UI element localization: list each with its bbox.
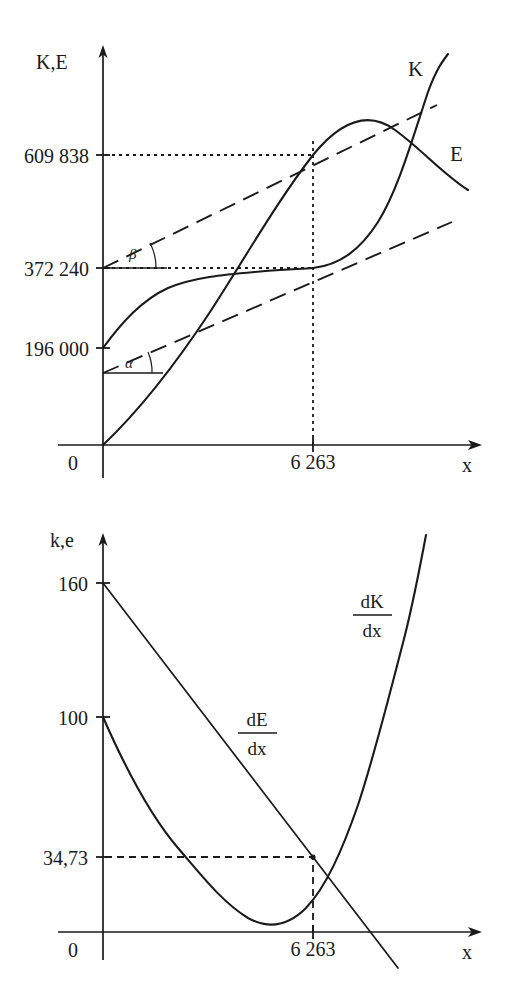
curve-K bbox=[103, 54, 448, 348]
tangent-line-beta bbox=[103, 105, 437, 268]
curve-label-E: E bbox=[450, 142, 463, 166]
angle-label-alpha: α bbox=[125, 355, 134, 371]
curve-E bbox=[103, 120, 468, 445]
y-tick-label-372240: 372 240 bbox=[24, 258, 89, 280]
fraction-dE-denominator: dx bbox=[248, 738, 268, 759]
y-tick-marks-bottom bbox=[96, 583, 313, 939]
x-axis-title-top: x bbox=[462, 454, 472, 476]
curve-dE-dx bbox=[103, 583, 398, 968]
fraction-dK-dx: dK dx bbox=[353, 591, 392, 641]
y-tick-label-609838: 609 838 bbox=[24, 145, 89, 167]
angle-label-beta: β bbox=[128, 246, 137, 262]
x-axis-title-bottom: x bbox=[462, 941, 472, 963]
y-axis-title-bottom: k,e bbox=[50, 529, 74, 551]
fraction-dK-numerator: dK bbox=[360, 591, 384, 612]
y-tick-label-160: 160 bbox=[58, 573, 88, 595]
figure-top-K-E: β α K,E x 0 609 838 372 240 196 000 6 26… bbox=[0, 0, 513, 495]
y-tick-label-196000: 196 000 bbox=[24, 338, 89, 360]
axes-top bbox=[58, 45, 482, 478]
figure-bottom-dK-dE: dK dx dE dx k,e x 0 160 100 34,73 6 263 bbox=[0, 495, 513, 990]
fraction-dE-dx: dE dx bbox=[238, 709, 277, 759]
origin-label-top: 0 bbox=[68, 452, 78, 474]
y-tick-label-100: 100 bbox=[58, 707, 88, 729]
curve-label-K: K bbox=[408, 57, 423, 81]
tangent-line-alpha bbox=[103, 222, 452, 373]
fraction-dK-denominator: dx bbox=[363, 620, 383, 641]
fraction-dE-numerator: dE bbox=[246, 709, 267, 730]
axes-bottom bbox=[58, 533, 482, 960]
projection-lines-top bbox=[105, 140, 313, 445]
origin-label-bottom: 0 bbox=[68, 939, 78, 961]
x-tick-label-6263-top: 6 263 bbox=[291, 451, 336, 473]
x-tick-label-6263-bottom: 6 263 bbox=[291, 938, 336, 960]
y-tick-label-3473: 34,73 bbox=[43, 847, 88, 869]
projection-lines-bottom bbox=[105, 854, 316, 932]
y-axis-title-top: K,E bbox=[36, 51, 68, 73]
